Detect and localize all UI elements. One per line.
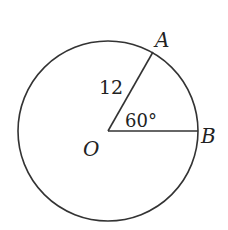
segment-length-label: 12 bbox=[99, 76, 123, 98]
angle-label: 60° bbox=[125, 110, 157, 131]
point-label-b: B bbox=[200, 124, 216, 148]
circle-diagram: A B O 12 60° bbox=[0, 0, 228, 230]
diagram-svg: A B O 12 60° bbox=[0, 0, 228, 230]
point-label-a: A bbox=[153, 28, 169, 52]
point-label-o: O bbox=[83, 137, 99, 161]
